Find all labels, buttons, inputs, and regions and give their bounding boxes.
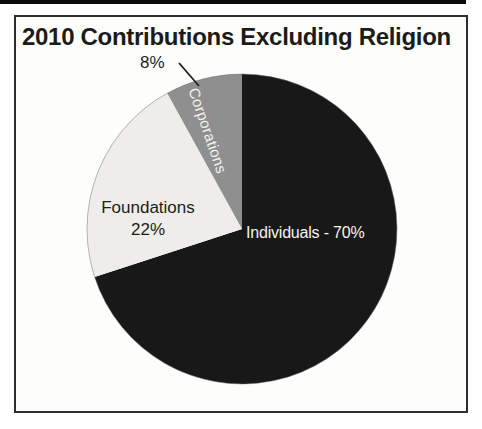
callout-leader-line bbox=[179, 63, 199, 86]
pie-chart bbox=[0, 0, 482, 429]
figure-page: 2010 Contributions Excluding Religion 8%… bbox=[0, 0, 482, 429]
